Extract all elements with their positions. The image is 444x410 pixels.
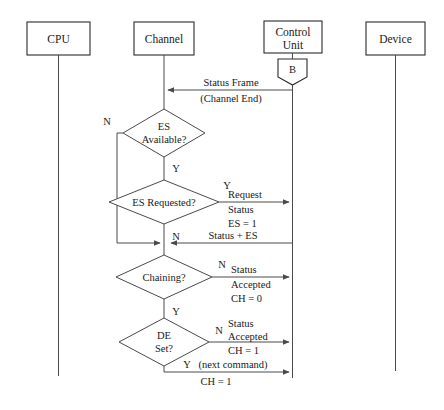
status-accepted-ch1-line2: Accepted — [228, 331, 268, 342]
control-unit-label-line2: Unit — [283, 39, 304, 51]
status-frame-label-above: Status Frame — [203, 77, 258, 88]
lane-header-cpu[interactable]: CPU — [27, 22, 90, 55]
message-status-accepted-ch1[interactable]: Status Accepted CH = 1 — [209, 318, 289, 356]
de-set-label-line2: Set? — [155, 343, 173, 354]
device-label: Device — [379, 33, 412, 45]
message-request-status[interactable]: Request Status ES = 1 — [219, 189, 289, 229]
es-available-no-label: N — [103, 116, 111, 127]
message-status-accepted-ch0[interactable]: Status Accepted CH = 0 — [212, 264, 289, 304]
status-accepted-ch0-line1: Status — [231, 264, 257, 275]
decision-es-available[interactable]: ES Available? N Y — [103, 109, 205, 174]
cpu-label: CPU — [47, 33, 70, 45]
status-accepted-ch0-line2: Accepted — [231, 279, 271, 290]
es-requested-no-label: N — [172, 231, 180, 242]
next-command-line2: CH = 1 — [200, 376, 231, 387]
chaining-yes-label: Y — [172, 306, 180, 317]
channel-label: Channel — [145, 33, 183, 45]
flowchart-canvas: CPU Channel Control Unit Device B — [0, 0, 444, 410]
chaining-no-label: N — [218, 259, 226, 270]
message-status-frame[interactable]: Status Frame (Channel End) — [168, 77, 293, 105]
decision-chaining[interactable]: Chaining? N Y — [116, 255, 226, 317]
es-available-label-line2: Available? — [142, 134, 187, 145]
status-frame-label-below: (Channel End) — [200, 93, 262, 105]
request-status-line2: Status — [228, 204, 254, 215]
status-plus-es-label: Status + ES — [208, 230, 257, 241]
status-accepted-ch1-line1: Status — [228, 318, 254, 329]
lane-header-device[interactable]: Device — [366, 22, 425, 55]
control-unit-b-marker[interactable]: B — [278, 59, 307, 85]
status-accepted-ch1-line3: CH = 1 — [228, 345, 259, 356]
de-set-no-label: N — [215, 325, 223, 336]
message-status-plus-es[interactable]: Status + ES — [171, 230, 293, 243]
request-status-line3: ES = 1 — [228, 218, 257, 229]
lane-header-control-unit[interactable]: Control Unit — [264, 21, 322, 53]
request-status-line1: Request — [228, 189, 262, 200]
de-set-label-line1: DE — [157, 330, 171, 341]
status-accepted-ch0-line3: CH = 0 — [231, 293, 262, 304]
next-command-line1: (next command) — [198, 359, 268, 371]
es-available-label-line1: ES — [158, 121, 170, 132]
de-set-yes-label: Y — [183, 359, 191, 370]
de-set-diamond — [119, 318, 209, 366]
es-available-diamond — [123, 109, 205, 157]
b-marker-label: B — [289, 64, 296, 75]
chaining-label: Chaining? — [142, 272, 185, 283]
control-unit-label-line1: Control — [275, 26, 310, 38]
flowchart-svg: CPU Channel Control Unit Device B — [0, 0, 444, 410]
lane-header-channel[interactable]: Channel — [134, 22, 194, 55]
es-available-yes-label: Y — [172, 163, 180, 174]
es-requested-label: ES Requested? — [132, 197, 196, 208]
